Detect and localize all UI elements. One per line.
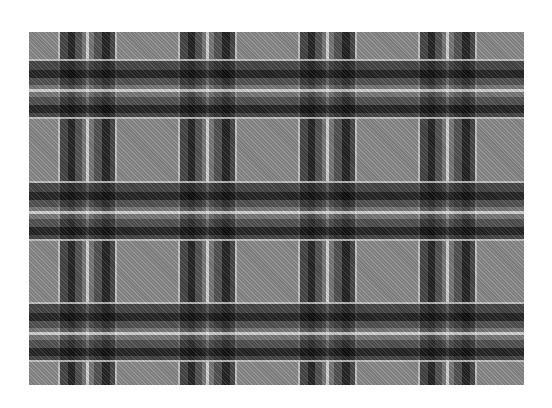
tartan-pattern xyxy=(29,32,524,385)
twill-texture xyxy=(29,32,524,385)
